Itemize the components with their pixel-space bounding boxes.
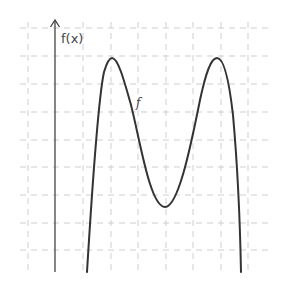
- y-axis-label: f(x): [61, 31, 83, 46]
- curve-label: f: [135, 96, 143, 110]
- function-curve: [87, 58, 241, 272]
- y-axis: [51, 20, 60, 272]
- function-graph: f(x) f: [0, 0, 300, 289]
- grid: [20, 22, 272, 275]
